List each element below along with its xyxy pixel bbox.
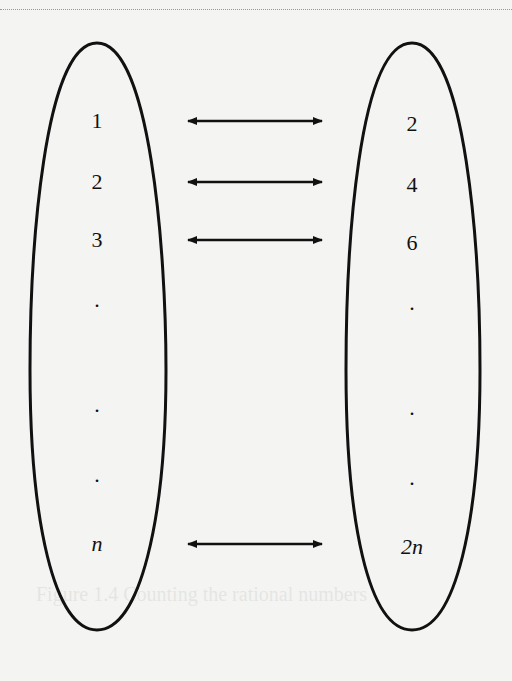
- right-set-element: 2: [407, 111, 418, 137]
- bijection-diagram: [0, 0, 512, 681]
- left-set-element: 1: [92, 108, 103, 134]
- left-set-element: .: [94, 287, 100, 313]
- right-set-element: .: [409, 465, 415, 491]
- right-set-element: .: [409, 395, 415, 421]
- right-set-element: .: [409, 290, 415, 316]
- left-set-element: .: [94, 392, 100, 418]
- right-set-element: 2n: [401, 534, 423, 560]
- right-set-element: 4: [407, 172, 418, 198]
- left-set-element: .: [94, 462, 100, 488]
- left-set-element: 2: [92, 169, 103, 195]
- left-set-element: 3: [92, 227, 103, 253]
- left-set-element: n: [92, 531, 103, 557]
- arrows: [188, 121, 322, 544]
- right-set-element: 6: [407, 230, 418, 256]
